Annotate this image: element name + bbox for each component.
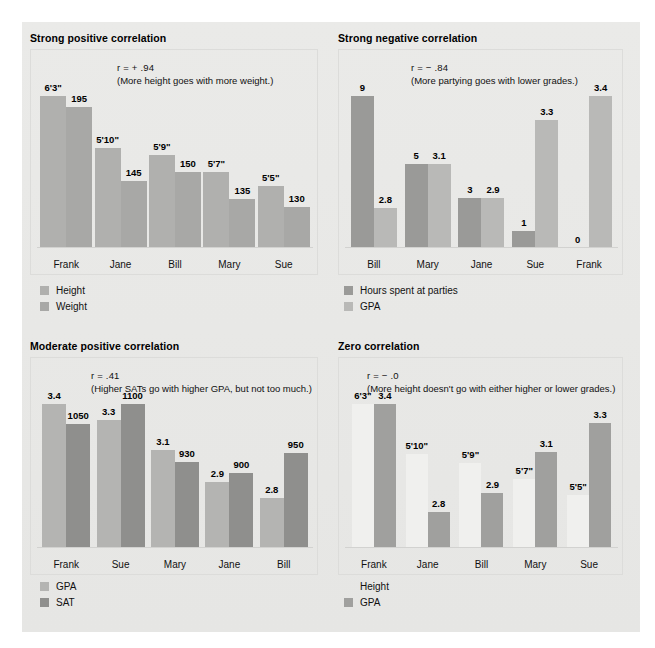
x-axis-label: Jane (406, 559, 450, 570)
bar (66, 107, 92, 248)
bar-value-label: 950 (288, 440, 304, 450)
plot-area-moderate-positive: r = .41(Higher SATs go with higher GPA, … (30, 357, 318, 575)
bar-value-label: 5'5" (262, 173, 279, 183)
bar (352, 404, 374, 548)
bar-value-label: 5'10" (96, 135, 119, 145)
bar-value-label: 2.9 (486, 480, 499, 490)
bar (66, 424, 90, 548)
bar-slot-hours-spent-at-parties-jane: 3 (458, 50, 481, 248)
bar-value-label: 5'7" (516, 466, 533, 476)
legend-item-weight[interactable]: Weight (40, 300, 87, 312)
bar (535, 452, 557, 548)
bar-slot-weight-jane: 145 (121, 50, 147, 248)
x-axis-label: Jane (95, 259, 147, 270)
bar-value-label: 145 (126, 168, 142, 178)
bar-group-zero-sue: 5'5"3.3 (567, 358, 611, 548)
bar (374, 208, 397, 248)
bar-slot-sat-frank: 1050 (66, 358, 90, 548)
bar-slot-hours-spent-at-parties-mary: 5 (405, 50, 428, 248)
bars-layer-strong-positive: 6'3"1955'10"1455'9"1505'7"1355'5"130 (31, 50, 317, 248)
bar (205, 482, 229, 548)
x-axis-labels-zero: FrankJaneBillMarySue (347, 559, 616, 570)
bar-value-label: 150 (180, 159, 196, 169)
legend-item-hours-spent-at-parties[interactable]: Hours spent at parties (344, 284, 458, 296)
bar-slot-height-mary: 5'7" (203, 50, 229, 248)
legend-label: GPA (360, 597, 380, 608)
bar (284, 207, 310, 248)
plot-area-zero: r = − .0(More height doesn't go with eit… (338, 357, 623, 575)
bar-value-label: 3.1 (433, 151, 446, 161)
bar-slot-gpa-frank: 3.4 (42, 358, 66, 548)
legend-item-height[interactable]: Height (40, 284, 87, 296)
bar-group-strong-positive-mary: 5'7"135 (203, 50, 255, 248)
bar-group-strong-negative-mary: 53.1 (405, 50, 451, 248)
legend-swatch-icon (40, 302, 49, 311)
bar-value-label: 130 (289, 194, 305, 204)
bar-slot-gpa-jane: 2.9 (205, 358, 229, 548)
bar-slot-weight-bill: 150 (175, 50, 201, 248)
bars-layer-strong-negative: 92.853.132.913.303.4 (339, 50, 622, 248)
bar (481, 493, 503, 548)
legend-swatch-icon (344, 286, 353, 295)
bar-group-strong-negative-frank: 03.4 (566, 50, 612, 248)
chart-title-zero: Zero correlation (338, 340, 634, 352)
bar (589, 423, 611, 548)
bar-slot-gpa-frank: 3.4 (374, 358, 396, 548)
bar-slot-gpa-mary: 3.1 (428, 50, 451, 248)
bar-value-label: 5'7" (208, 159, 225, 169)
bar-value-label: 930 (179, 449, 195, 459)
legend-item-gpa[interactable]: GPA (40, 580, 76, 592)
chart-panel-zero: Zero correlationr = − .0(More height doe… (338, 340, 634, 630)
legend-moderate-positive: GPASAT (40, 580, 76, 608)
x-axis-label: Frank (352, 559, 396, 570)
bar-slot-height-mary: 5'7" (513, 358, 535, 548)
bar-value-label: 3.4 (594, 83, 607, 93)
bar-group-moderate-positive-frank: 3.41050 (42, 358, 90, 548)
x-axis-label: Jane (205, 559, 253, 570)
plot-area-strong-negative: r = − .84(More partying goes with lower … (338, 49, 623, 275)
bar-slot-gpa-jane: 2.8 (428, 358, 450, 548)
bar-value-label: 1100 (122, 391, 143, 401)
bar (405, 164, 428, 248)
legend-item-gpa[interactable]: GPA (344, 300, 458, 312)
bar-value-label: 3.1 (156, 437, 169, 447)
bar-slot-gpa-mary: 3.1 (535, 358, 557, 548)
bar-slot-height-frank: 6'3" (352, 358, 374, 548)
bar (149, 155, 175, 248)
bar-slot-height-sue: 5'5" (258, 50, 284, 248)
bar (97, 420, 121, 548)
legend-item-height[interactable]: Height (344, 580, 389, 592)
x-axis-label: Sue (97, 559, 145, 570)
bar-slot-height-sue: 5'5" (567, 358, 589, 548)
bar-group-strong-positive-bill: 5'9"150 (149, 50, 201, 248)
legend-label: Hours spent at parties (360, 285, 458, 296)
bar-value-label: 135 (234, 186, 250, 196)
legend-label: Height (360, 581, 389, 592)
bar-group-strong-negative-jane: 32.9 (458, 50, 504, 248)
bar (428, 164, 451, 248)
x-axis-label: Mary (513, 559, 557, 570)
bar-value-label: 5'10" (405, 441, 428, 451)
bar (229, 473, 253, 548)
x-axis-line-strong-positive (37, 247, 313, 248)
legend-label: Weight (56, 301, 87, 312)
bar (589, 96, 612, 248)
bar-slot-height-frank: 6'3" (40, 50, 66, 248)
bar (203, 172, 229, 248)
chart-title-strong-negative: Strong negative correlation (338, 32, 634, 44)
bar-group-zero-frank: 6'3"3.4 (352, 358, 396, 548)
bar-group-moderate-positive-mary: 3.1930 (151, 358, 199, 548)
legend-strong-positive: HeightWeight (40, 284, 87, 312)
legend-swatch-icon (344, 302, 353, 311)
x-axis-label: Jane (458, 259, 504, 270)
bar-value-label: 1050 (68, 411, 89, 421)
bar-slot-sat-sue: 1100 (121, 358, 145, 548)
bar (351, 96, 374, 248)
legend-swatch-icon (40, 286, 49, 295)
x-axis-labels-strong-negative: BillMaryJaneSueFrank (347, 259, 616, 270)
bar-value-label: 1 (521, 218, 526, 228)
legend-item-sat[interactable]: SAT (40, 596, 76, 608)
bar (428, 512, 450, 548)
legend-item-gpa[interactable]: GPA (344, 596, 389, 608)
bar-group-strong-negative-bill: 92.8 (351, 50, 397, 248)
